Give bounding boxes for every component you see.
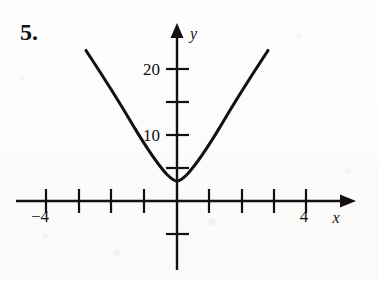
figure-page: 5. (0, 0, 378, 281)
y-tick-label-10: 10 (143, 126, 160, 145)
coordinate-plot: −4 4 20 10 x y (0, 0, 378, 281)
y-axis-arrowhead (171, 23, 184, 38)
y-tick-label-20: 20 (143, 60, 160, 79)
x-axis-name-label: x (331, 209, 339, 226)
y-axis-name-label: y (188, 25, 198, 43)
x-axis-arrowhead (340, 195, 356, 208)
x-tick-label--4: −4 (31, 207, 50, 226)
x-tick-label-4: 4 (300, 207, 309, 226)
